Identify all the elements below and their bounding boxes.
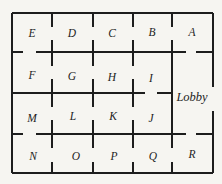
room-label-f: F xyxy=(27,69,36,81)
room-label-a: A xyxy=(187,26,196,38)
room-label-l: L xyxy=(69,110,76,122)
room-label-j: J xyxy=(148,112,154,124)
floor-plan-canvas: EDCBAFGHILobbyMLKJNOPQR xyxy=(0,0,222,184)
room-label-k: K xyxy=(108,110,118,122)
room-label-c: C xyxy=(108,27,116,39)
room-label-d: D xyxy=(67,27,77,39)
room-label-m: M xyxy=(26,112,38,124)
floor-plan-figure: EDCBAFGHILobbyMLKJNOPQR xyxy=(0,0,222,184)
room-label-n: N xyxy=(28,150,38,162)
room-label-r: R xyxy=(187,148,195,160)
room-label-o: O xyxy=(72,150,81,162)
room-label-q: Q xyxy=(149,150,158,162)
room-label-lobby: Lobby xyxy=(175,90,208,104)
room-label-h: H xyxy=(107,71,117,83)
room-label-p: P xyxy=(109,150,117,162)
room-label-i: I xyxy=(148,72,154,84)
room-label-g: G xyxy=(68,70,77,82)
room-label-e: E xyxy=(27,27,35,39)
room-label-b: B xyxy=(148,26,155,38)
